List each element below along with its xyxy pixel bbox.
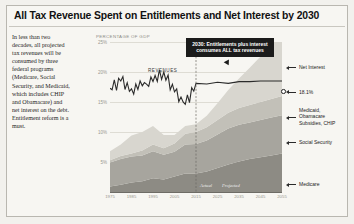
x-tick-label: 1975 <box>105 194 115 199</box>
x-tick-label: 1985 <box>127 194 137 199</box>
y-tick-label: 20% <box>98 70 110 75</box>
x-tick-label: 1995 <box>148 194 158 199</box>
x-tick-label: 2015 <box>191 194 201 199</box>
y-tick-label: 10% <box>98 130 110 135</box>
net-interest-leader <box>288 67 296 68</box>
actual-label: Actual <box>200 183 212 188</box>
medicaid-line2: Obamacare <box>299 113 325 119</box>
x-tick-label: 2035 <box>234 194 244 199</box>
series-label-medicare: Medicare <box>299 181 320 187</box>
projected-label: Projected <box>222 183 240 188</box>
x-axis-line <box>110 192 282 193</box>
x-tick-label: 2005 <box>170 194 180 199</box>
chart-plot-area: 25%20%15%10%5% 1975198519952005201520252… <box>110 42 282 192</box>
page-root: All Tax Revenue Spent on Entitlements an… <box>0 0 354 224</box>
series-label-medicaid: Medicaid, Obamacare Subsidies, CHIP <box>299 107 335 126</box>
series-label-social-security: Social Security <box>299 139 332 145</box>
medicaid-line1: Medicaid, <box>299 107 320 113</box>
series-label-net-interest: Net Interest <box>299 64 325 70</box>
revenues-label: REVENUES <box>148 68 177 73</box>
title-divider <box>9 26 345 27</box>
y-tick-label: 25% <box>98 40 110 45</box>
pct-value-label: 18.1% <box>299 89 313 95</box>
social-security-leader <box>288 142 296 143</box>
pct-leader <box>288 92 296 93</box>
y-axis-title: PERCENTAGE OF GDP <box>96 34 150 39</box>
callout-box: 2030: Entitlements plus interest consume… <box>186 38 274 57</box>
y-tick-label: 15% <box>98 100 110 105</box>
x-tick-label: 2045 <box>256 194 266 199</box>
medicare-leader <box>288 184 296 185</box>
x-tick-label: 2025 <box>213 194 223 199</box>
intro-paragraph: In less than two decades, all projected … <box>12 33 70 130</box>
x-tick-label: 2055 <box>277 194 287 199</box>
medicaid-leader <box>288 117 296 118</box>
stacked-area-series <box>110 42 282 193</box>
y-tick-label: 5% <box>100 160 110 165</box>
medicaid-line3: Subsidies, CHIP <box>299 120 335 126</box>
page-title: All Tax Revenue Spent on Entitlements an… <box>14 10 334 21</box>
